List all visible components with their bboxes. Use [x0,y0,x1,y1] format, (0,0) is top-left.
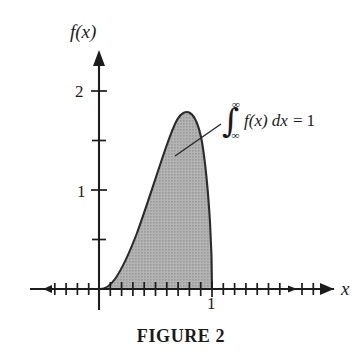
integrand-expression: f(x) dx [244,112,288,129]
figure-container: f(x) x 2 1 1 ∫ ∞ −∞ f(x) dx = 1 FIGURE 2 [0,0,362,359]
y-axis-title: f(x) [70,22,96,41]
y-tick-label-2: 2 [75,83,84,100]
integral-annotation: ∫ ∞ −∞ f(x) dx = 1 [222,100,315,140]
y-axis-arrowhead [93,50,105,66]
equals-sign: = [293,112,303,129]
integral-value: 1 [306,112,315,129]
integral-sign-group: ∫ ∞ −∞ [222,100,239,140]
figure-caption: FIGURE 2 [0,326,362,347]
integral-lower-limit: −∞ [224,130,239,141]
density-area [99,112,212,289]
x-axis-arrowhead [320,283,334,295]
x-axis-inner-left-arrow-icon [43,285,52,293]
x-tick-label-1: 1 [207,295,216,312]
x-axis-title: x [341,279,349,298]
y-tick-label-1: 1 [77,183,86,200]
x-axis-inner-right-arrow-icon [288,286,297,293]
integral-upper-limit: ∞ [232,99,240,110]
plot-canvas [0,0,362,359]
